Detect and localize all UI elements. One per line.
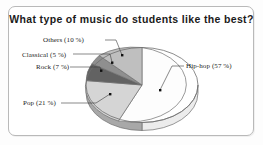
slice-label-classical: Classical (5 %) [22, 51, 66, 59]
marker-dot-pop [109, 93, 111, 95]
marker-dot-rock [100, 70, 102, 72]
marker-dot-others [121, 54, 123, 56]
slice-label-rock: Rock (7 %) [36, 63, 69, 71]
pie-chart-graphic [0, 0, 263, 145]
slice-label-others: Others (10 %) [43, 36, 84, 44]
marker-dot-hiphop [159, 89, 161, 91]
slice-label-hiphop: Hip-hop (57 %) [186, 62, 232, 70]
slice-label-pop: Pop (21 %) [23, 99, 56, 107]
marker-dot-classical [111, 62, 113, 64]
pie-chart-figure: What type of music do students like the … [0, 0, 263, 145]
